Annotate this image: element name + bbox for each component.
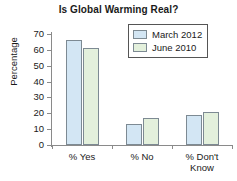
x-tick-mark — [172, 145, 173, 149]
legend-item: March 2012 — [133, 28, 202, 41]
bar — [126, 124, 142, 145]
bar — [66, 40, 82, 145]
x-tick-mark — [112, 145, 113, 149]
bar — [83, 48, 99, 145]
x-tick-label-line: % No — [112, 151, 172, 162]
x-tick-label-line: % Don't — [172, 151, 232, 162]
bar — [186, 115, 202, 145]
legend-label: March 2012 — [152, 29, 202, 40]
y-tick-label: 70 — [14, 29, 44, 39]
x-tick-label-line: Know — [172, 162, 232, 173]
legend-item: June 2010 — [133, 41, 202, 54]
bar — [203, 112, 219, 145]
x-tick-mark — [52, 145, 53, 149]
legend-swatch-icon — [133, 43, 147, 52]
legend-label: June 2010 — [152, 42, 196, 53]
y-tick-label: 50 — [14, 61, 44, 71]
y-tick-label: 10 — [14, 124, 44, 134]
bar — [143, 118, 159, 145]
x-tick-label: % Yes — [52, 151, 112, 162]
chart-title: Is Global Warming Real? — [0, 4, 237, 15]
y-tick-label: 0 — [14, 140, 44, 150]
x-tick-mark — [232, 145, 233, 149]
x-tick-label: % Don'tKnow — [172, 151, 232, 173]
y-tick-label: 40 — [14, 77, 44, 87]
chart-legend: March 2012June 2010 — [128, 24, 208, 58]
x-tick-label-line: % Yes — [52, 151, 112, 162]
legend-swatch-icon — [133, 30, 147, 39]
y-tick-label: 30 — [14, 92, 44, 102]
x-axis-line — [51, 145, 233, 146]
x-tick-label: % No — [112, 151, 172, 162]
y-tick-label: 60 — [14, 45, 44, 55]
y-tick-label: 20 — [14, 108, 44, 118]
bar-chart: Is Global Warming Real? Percentage 01020… — [0, 0, 237, 181]
